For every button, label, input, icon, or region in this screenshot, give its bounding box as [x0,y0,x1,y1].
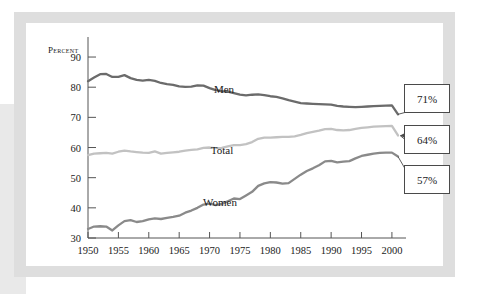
callout-total-value: 64% [417,134,437,146]
y-tick-label: 50 [71,173,82,184]
series-label-women: Women [203,196,237,208]
y-tick-label: 90 [71,52,82,63]
x-tick-label: 1950 [78,245,99,256]
callout-men[interactable]: 71% [404,84,450,113]
callout-men-value: 71% [417,93,437,105]
x-tick-label: 2000 [381,245,402,256]
x-tick-label: 1995 [351,245,372,256]
callout-total[interactable]: 64% [404,125,450,154]
series-line-men [88,74,398,114]
series-labels-group: MenTotalWomen [203,83,237,208]
figure-frame: Percent 30405060708090195019551960196519… [14,12,455,277]
x-tick-label: 1975 [229,245,250,256]
x-tick-label: 1965 [169,245,190,256]
y-tick-label: 80 [71,82,82,93]
x-tick-label: 1985 [290,245,311,256]
series-line-women [88,153,398,231]
y-tick-label: 60 [71,143,82,154]
y-tick-label: 30 [71,233,82,244]
line-chart-svg: 3040506070809019501955196019651970197519… [26,23,443,266]
x-tick-label: 1960 [138,245,159,256]
callout-women[interactable]: 57% [404,165,450,194]
series-label-men: Men [214,83,235,95]
y-tick-label: 40 [71,203,82,214]
x-tick-label: 1955 [108,245,129,256]
x-tick-label: 1970 [199,245,220,256]
figure-plot-area: Percent 30405060708090195019551960196519… [26,23,443,266]
chart-figure: Percent 30405060708090195019551960196519… [0,0,487,294]
callout-women-value: 57% [417,174,437,186]
x-tick-label: 1980 [260,245,281,256]
y-tick-label: 70 [71,112,82,123]
x-tick-label: 1990 [321,245,342,256]
series-label-total: Total [211,144,233,156]
series-line-total [88,126,398,155]
series-group [88,74,398,231]
